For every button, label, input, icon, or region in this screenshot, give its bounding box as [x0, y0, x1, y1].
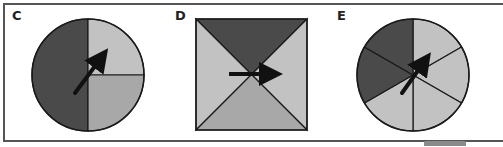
page-tab-decoration	[424, 141, 466, 146]
spinner-c	[32, 19, 144, 131]
sector-c-dark-half	[32, 19, 88, 131]
sector-c-medium-quarter	[88, 75, 144, 131]
spinner-d	[196, 19, 307, 130]
spinner-e	[357, 19, 469, 131]
